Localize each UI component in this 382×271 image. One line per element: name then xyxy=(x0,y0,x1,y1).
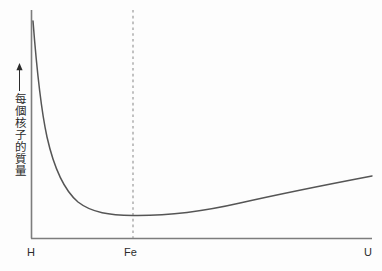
chart-canvas xyxy=(0,0,382,271)
nuclear-binding-energy-chart: 每個核子的質量 H Fe U xyxy=(0,0,382,271)
chart-background xyxy=(0,0,382,271)
x-tick-label-iron: Fe xyxy=(124,246,137,258)
x-tick-label-hydrogen: H xyxy=(27,246,35,258)
x-tick-label-uranium: U xyxy=(364,246,372,258)
